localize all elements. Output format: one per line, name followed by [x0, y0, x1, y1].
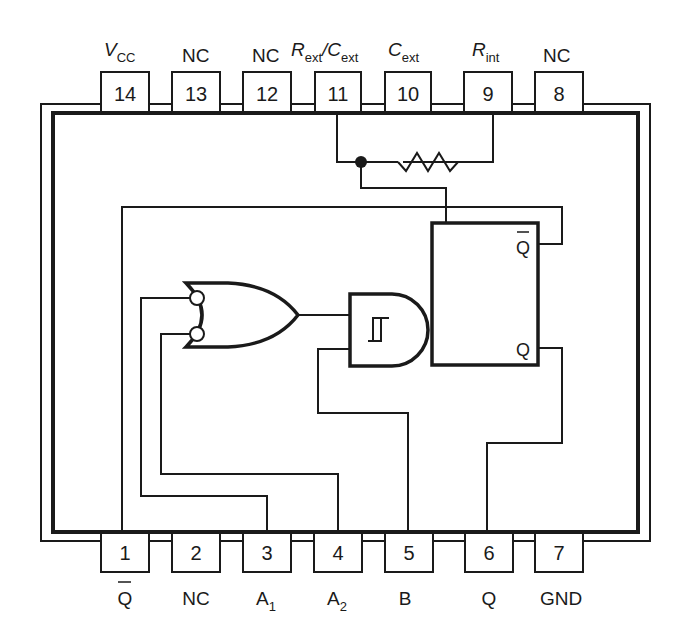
pin-number: 14	[114, 83, 136, 105]
pin-number: 9	[482, 83, 493, 105]
pin-1-name: Q	[118, 588, 133, 609]
pin-14-name: VCC	[104, 39, 135, 65]
pin-number: 11	[328, 83, 349, 105]
pin-number: 10	[397, 83, 419, 105]
bottom-pin-names: Q NC A1 A2 B Q GND	[118, 582, 583, 614]
pin-13-name: NC	[182, 45, 209, 66]
pin-number: 2	[190, 542, 201, 564]
pin-3-name: A1	[256, 588, 276, 614]
ic-diagram: 14 13 12 11 10 9 8 VCC NC NC Rext/Cext C…	[0, 0, 686, 640]
pin-7-name: GND	[540, 588, 582, 609]
pin-number: 7	[553, 542, 564, 564]
wire-pin11-node	[337, 115, 362, 162]
pin-number: 5	[403, 542, 414, 564]
pin-12-name: NC	[252, 45, 279, 66]
pin-number: 4	[332, 542, 343, 564]
ff-qbar-label: Q	[516, 238, 530, 258]
wire-b	[318, 349, 408, 532]
pin-number: 8	[553, 83, 564, 105]
pin-number: 1	[119, 542, 130, 564]
wire-q-pin6	[487, 348, 562, 532]
or-input-bubble-icon	[190, 327, 204, 341]
pin-4-name: A2	[327, 588, 347, 614]
pin-number: 6	[483, 542, 494, 564]
pin-6-name: Q	[482, 588, 497, 609]
wire-node-ff	[361, 162, 446, 223]
junction-dot-icon	[355, 156, 367, 168]
pin-9-name: Rint	[472, 39, 500, 65]
ff-q-label: Q	[516, 340, 530, 360]
package-outline	[41, 104, 650, 541]
or-input-bubble-icon	[190, 291, 204, 305]
wire-a2	[161, 334, 338, 532]
pin-2-name: NC	[182, 588, 209, 609]
pin-11-name: Rext/Cext	[291, 39, 359, 65]
top-pin-names: VCC NC NC Rext/Cext Cext Rint NC	[104, 39, 570, 66]
pin-8-name: NC	[543, 45, 570, 66]
pin-10-name: Cext	[388, 39, 419, 65]
flipflop-block: Q Q	[432, 223, 538, 365]
pin-number: 3	[261, 542, 272, 564]
and-gate-icon	[350, 294, 428, 366]
pin-number: 13	[185, 83, 207, 105]
pin-number: 12	[256, 83, 278, 105]
pin-5-name: B	[399, 588, 412, 609]
